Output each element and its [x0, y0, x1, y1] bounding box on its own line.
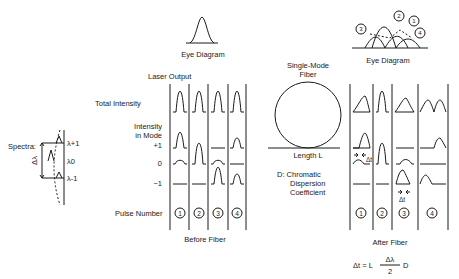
formula-numerator: Δλ	[380, 255, 400, 264]
dispersion-label-1: D: Chromatic	[277, 170, 321, 179]
after-fiber-caption: After Fiber	[360, 238, 420, 247]
after-pulse-3-marker: 3	[399, 209, 409, 218]
before-fiber-caption: Before Fiber	[175, 235, 235, 244]
mode-minus1-label: −1	[140, 179, 162, 188]
lambda-0-label: λ0	[67, 157, 75, 166]
laser-output-label: Laser Output	[148, 72, 191, 81]
before-eye-label: Eye Diagram	[176, 50, 230, 59]
eye-marker-3: 3	[356, 25, 366, 34]
after-eye-label: Eye Diagram	[358, 56, 418, 65]
spectra-graphic	[40, 130, 64, 205]
dispersion-label-3: Coefficient	[290, 188, 325, 197]
after-pulse-4-marker: 4	[427, 209, 437, 218]
lambda-plus1-label: λ+1	[67, 139, 79, 148]
mode-plus1-label: +1	[140, 141, 162, 150]
total-intensity-label: Total Intensity	[95, 99, 141, 108]
formula-rhs: D	[403, 261, 408, 270]
eye-marker-1: 1	[409, 17, 419, 26]
formula-denominator: 2	[380, 267, 400, 276]
pulse-number-label: Pulse Number	[115, 209, 163, 218]
fiber-title-2: Fiber	[278, 70, 338, 79]
mode-0-label: 0	[140, 159, 162, 168]
pulse-1-marker: 1	[175, 209, 185, 218]
delta-t-label-3: Δt	[399, 195, 405, 204]
after-pulse-1-marker: 1	[356, 209, 366, 218]
pulse-4-marker: 4	[232, 209, 242, 218]
eye-marker-2: 2	[394, 12, 404, 21]
formula-lhs: Δt = L	[353, 261, 373, 270]
intensity-mode-label-1: Intensity	[120, 122, 162, 131]
after-pulse-2-marker: 2	[377, 209, 387, 218]
fiber-title-1: Single-Mode	[278, 61, 338, 70]
eye-diagram-before	[186, 17, 218, 43]
pulse-2-marker: 2	[194, 209, 204, 218]
pulse-3-marker: 3	[213, 209, 223, 218]
spectra-label: Spectra:	[8, 142, 36, 151]
lambda-minus1-label: λ-1	[67, 174, 77, 183]
fiber-length-label: Length L	[278, 151, 338, 160]
intensity-mode-label-2: in Mode	[120, 131, 162, 140]
delta-t-label-1: Δt	[366, 155, 372, 164]
delta-lambda-label: Δλ	[30, 156, 39, 165]
fiber-coil	[268, 82, 341, 148]
eye-marker-4: 4	[415, 29, 425, 38]
dispersion-label-2: Dispersion	[290, 179, 325, 188]
